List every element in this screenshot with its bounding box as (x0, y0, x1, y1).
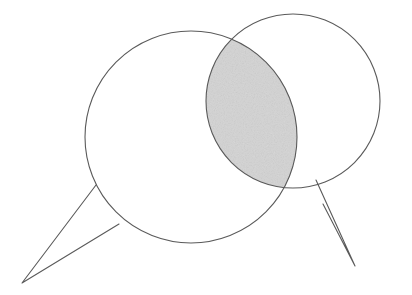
speech-bubble-venn-diagram (0, 0, 412, 295)
right-bubble-tail (316, 180, 355, 266)
lens-stipple-texture (206, 14, 380, 188)
shaded-lens-intersection (206, 14, 380, 188)
left-bubble-tail (22, 185, 119, 283)
diagram-canvas: Two hand-drawn circular speech balloons … (0, 0, 412, 295)
